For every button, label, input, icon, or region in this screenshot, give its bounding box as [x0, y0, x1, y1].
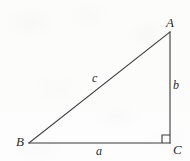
vertex-label-b: B [16, 135, 24, 148]
side-label-b: b [173, 79, 179, 91]
side-label-c: c [92, 72, 97, 84]
side-c-line [29, 32, 170, 143]
vertex-label-a: A [166, 16, 174, 29]
right-angle-square-icon [162, 135, 170, 143]
right-triangle-figure: A B C a b c [0, 0, 190, 161]
vertex-label-c: C [173, 143, 182, 156]
side-label-a: a [96, 145, 102, 157]
triangle-outline [29, 32, 170, 143]
